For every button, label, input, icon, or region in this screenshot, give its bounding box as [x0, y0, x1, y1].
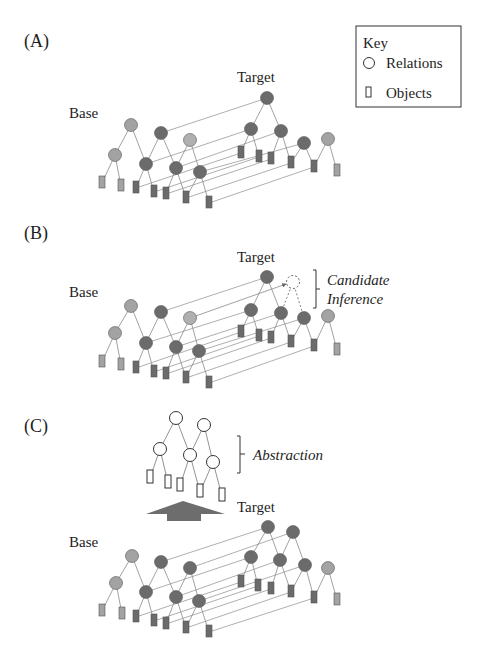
abstraction-tree — [147, 412, 225, 502]
target-label-b: Target — [237, 249, 276, 265]
base-label-c: Base — [69, 534, 99, 550]
target-objects-c — [238, 575, 340, 605]
key-legend: Key Relations Objects — [356, 26, 461, 107]
target-objects-b — [238, 325, 340, 355]
panel-label-a: (A) — [24, 31, 49, 52]
key-objects-label: Objects — [386, 85, 432, 101]
candidate-inference-node — [287, 276, 300, 289]
target-relations-c — [245, 521, 335, 575]
base-label-a: Base — [69, 105, 99, 121]
mapping-lines-b — [136, 277, 314, 383]
target-label-c: Target — [237, 499, 276, 515]
panel-c: (C) — [24, 412, 340, 638]
panel-a: (A) Base Target — [24, 31, 340, 208]
target-relations-a — [245, 92, 335, 150]
key-relations-label: Relations — [386, 55, 443, 71]
bracket-icon — [237, 436, 245, 473]
base-label-b: Base — [69, 284, 99, 300]
analogy-diagram: (A) Base Target — [0, 0, 486, 655]
up-arrow-icon — [146, 501, 225, 521]
mapping-lines-c — [136, 527, 314, 632]
bracket-icon — [313, 270, 320, 308]
panel-label-c: (C) — [24, 416, 48, 437]
target-objects-a — [238, 146, 340, 176]
target-label-a: Target — [237, 69, 276, 85]
annotation-inference: Inference — [326, 291, 383, 307]
annotation-abstraction: Abstraction — [252, 447, 323, 463]
key-title: Key — [363, 35, 388, 51]
panel-b: (B) Base Target — [24, 223, 390, 388]
annotation-candidate: Candidate — [327, 272, 390, 288]
panel-label-b: (B) — [24, 223, 48, 244]
